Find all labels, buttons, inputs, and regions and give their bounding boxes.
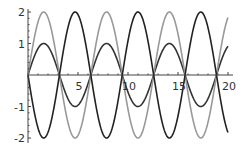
axis-ticks	[28, 12, 228, 138]
x-tick-label: 10	[122, 80, 136, 93]
x-tick-label: 20	[222, 80, 236, 93]
x-tick-label: 5	[76, 80, 83, 93]
y-tick-label: -1	[14, 101, 25, 114]
y-tick-label: -2	[14, 132, 25, 145]
y-tick-label: 2	[18, 6, 25, 19]
line-chart: 5101520-2-112	[0, 0, 248, 149]
y-tick-label: 1	[18, 38, 25, 51]
x-tick-label: 15	[172, 80, 186, 93]
